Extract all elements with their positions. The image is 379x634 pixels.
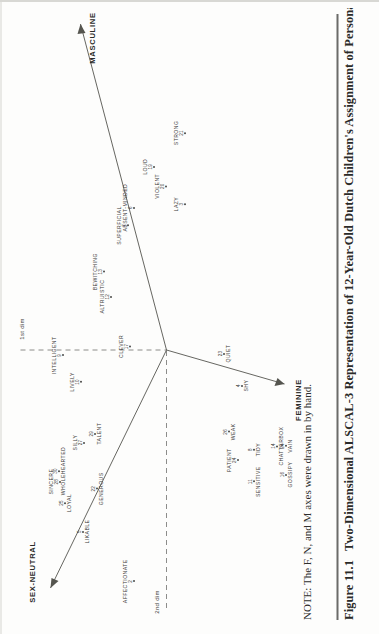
figure-sheet: SEX-NEUTRAL MASCULINE FEMININE 1st dim 2… [0,0,379,634]
figure-number: Figure 11.1 [341,560,355,620]
plot-lines [6,10,292,624]
sex-neutral-arrowhead [50,578,58,588]
axis-label-masculine: MASCULINE [88,12,97,63]
caption-divider [336,14,338,620]
axis-label-sex-neutral: SEX-NEUTRAL [28,541,37,603]
sex-neutral-axis-line [50,350,166,588]
masculine-arrowhead [77,24,85,34]
figure-caption-text: Two-Dimensional ALSCAL-3 Representation … [341,8,355,551]
masculine-axis-line [80,24,166,350]
feminine-axis-line [166,350,284,384]
feminine-arrowhead [274,378,284,386]
scanned-page: SEX-NEUTRAL MASCULINE FEMININE 1st dim 2… [0,0,379,634]
scatter-plot: SEX-NEUTRAL MASCULINE FEMININE 1st dim 2… [6,10,292,624]
dim1-label: 1st dim [18,318,24,339]
figure-caption: Figure 11.1Two-Dimensional ALSCAL-3 Repr… [341,8,356,620]
figure-note: NOTE: The F, N, and M axes were drawn in… [300,220,312,620]
dim2-label: 2nd dim [153,590,159,613]
